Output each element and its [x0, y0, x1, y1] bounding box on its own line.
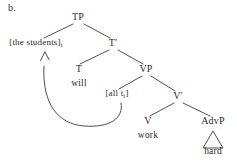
tree-node-tbar: T′	[109, 38, 118, 48]
tree-node-vbar-prime: ′	[181, 90, 183, 101]
tree-node-tbar-prime: ′	[115, 37, 117, 48]
movement-arrowhead	[41, 52, 50, 61]
tree-branch-vbar-v	[150, 103, 174, 116]
tree-node-t: T	[76, 64, 82, 74]
tree-node-alltrace-text: [all t	[105, 88, 123, 98]
tree-node-vbar: V′	[173, 91, 183, 101]
tree-node-work: work	[138, 131, 158, 141]
tree-branch-vp-vbar	[151, 76, 175, 91]
tree-node-will-text: will	[71, 78, 87, 88]
tree-node-tp: TP	[72, 12, 84, 22]
tree-node-alltrace: [all ti]	[105, 89, 128, 98]
tree-node-advp: AdvP	[201, 116, 225, 126]
tree-node-vp-text: VP	[139, 63, 152, 74]
tree-node-advp-text: AdvP	[201, 115, 225, 126]
panel-label: b.	[8, 3, 16, 13]
tree-branches	[44, 24, 210, 116]
tree-node-hard-text: hard	[204, 146, 222, 156]
tree-branch-tbar-vp	[118, 50, 143, 64]
tree-node-vp: VP	[139, 64, 152, 74]
tree-canvas	[0, 0, 237, 162]
tree-node-alltrace-index: i	[123, 92, 125, 99]
tree-branch-tp-subject	[44, 24, 73, 38]
tree-node-work-text: work	[138, 130, 158, 140]
tree-node-will: will	[71, 79, 87, 89]
tree-node-t-text: T	[76, 63, 82, 74]
tree-branch-tp-tbar	[84, 24, 110, 38]
tree-branch-tbar-t	[80, 50, 109, 64]
tree-node-v-text: V	[144, 115, 151, 126]
syntax-tree-figure: b. TP[the students]iT′TwillVP[all ti]V′V…	[0, 0, 237, 162]
tree-node-alltrace-tail: ]	[125, 88, 128, 98]
tree-node-subject-text: [the students]	[9, 37, 61, 47]
tree-node-v: V	[144, 116, 151, 126]
tree-node-tp-text: TP	[72, 11, 84, 22]
tree-node-subject: [the students]i	[9, 38, 63, 47]
tree-node-hard: hard	[204, 147, 222, 157]
tree-node-subject-index: i	[61, 41, 63, 48]
